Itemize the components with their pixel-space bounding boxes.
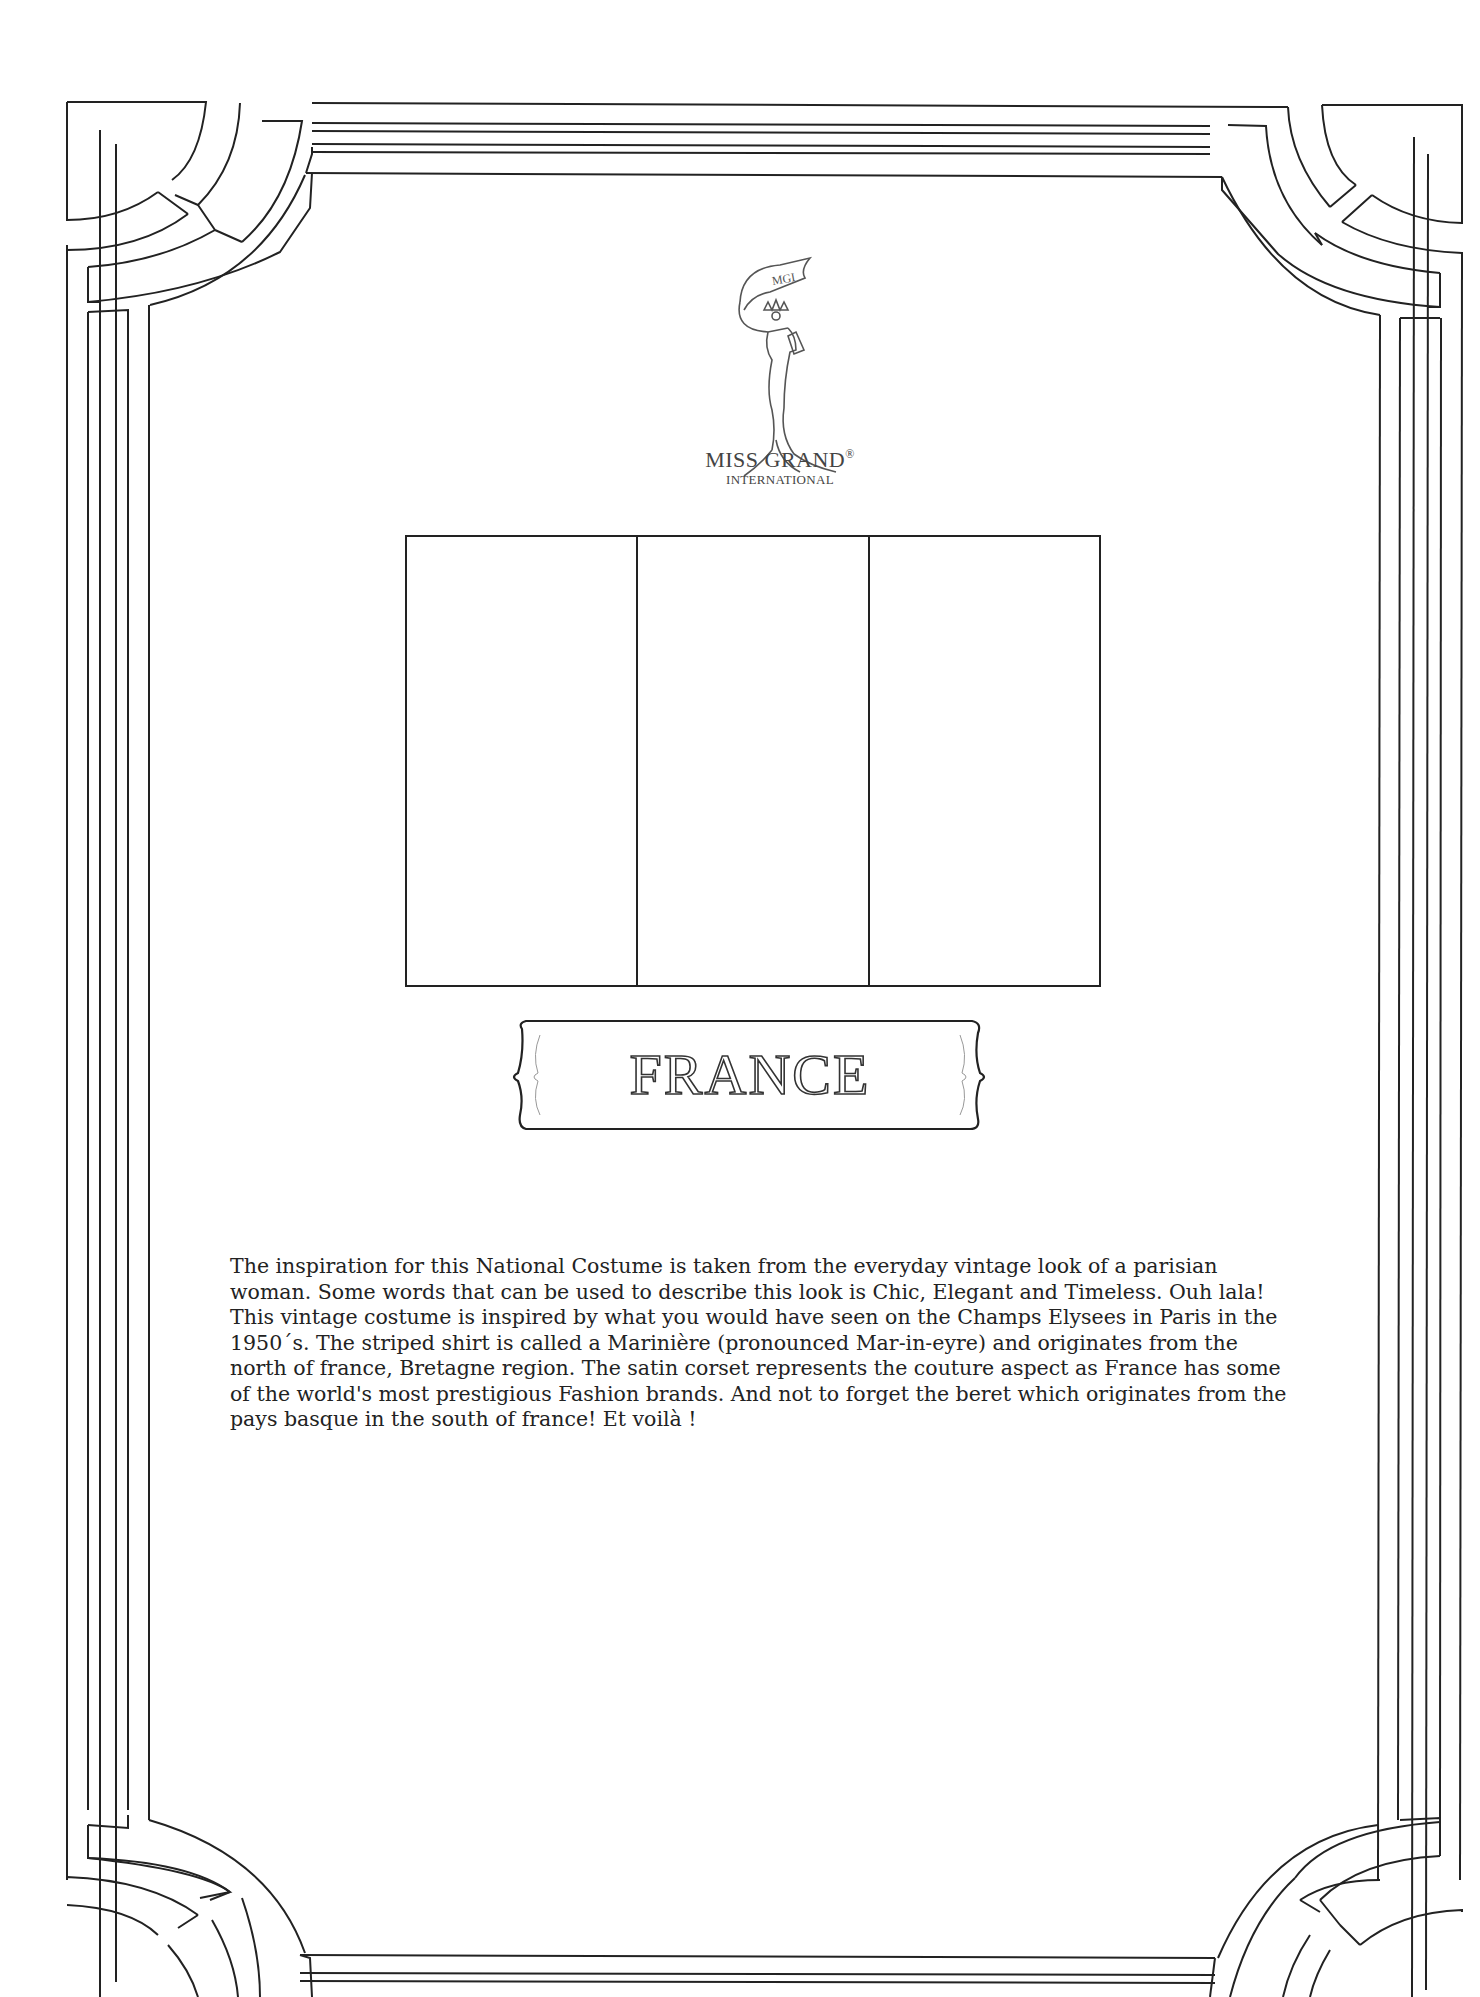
flag-stripe-middle	[638, 537, 869, 985]
corner-ornament-top-right	[1222, 105, 1462, 318]
registered-mark: ®	[845, 447, 855, 461]
svg-text:MGI: MGI	[771, 270, 796, 288]
costume-description: The inspiration for this National Costum…	[230, 1254, 1300, 1433]
flag-stripe-right	[870, 537, 1099, 985]
logo-wordmark: MISS GRAND® INTERNATIONAL	[640, 448, 920, 488]
flag-stripe-left	[407, 537, 638, 985]
description-paragraph-1: The inspiration for this National Costum…	[230, 1254, 1300, 1305]
france-flag-outline	[405, 535, 1101, 987]
logo-subtitle: INTERNATIONAL	[640, 472, 920, 488]
corner-ornament-top-left	[67, 102, 312, 330]
country-name-label: FRANCE	[510, 1035, 990, 1115]
corner-ornament-bottom-left	[67, 1815, 312, 1997]
corner-ornament-bottom-right	[1210, 1818, 1462, 1997]
coloring-page: MGI MISS GRAND® INTERNATIONAL FRANCE The…	[0, 0, 1480, 1997]
description-paragraph-2: This vintage costume is inspired by what…	[230, 1305, 1300, 1433]
logo-title: MISS GRAND®	[640, 448, 920, 472]
